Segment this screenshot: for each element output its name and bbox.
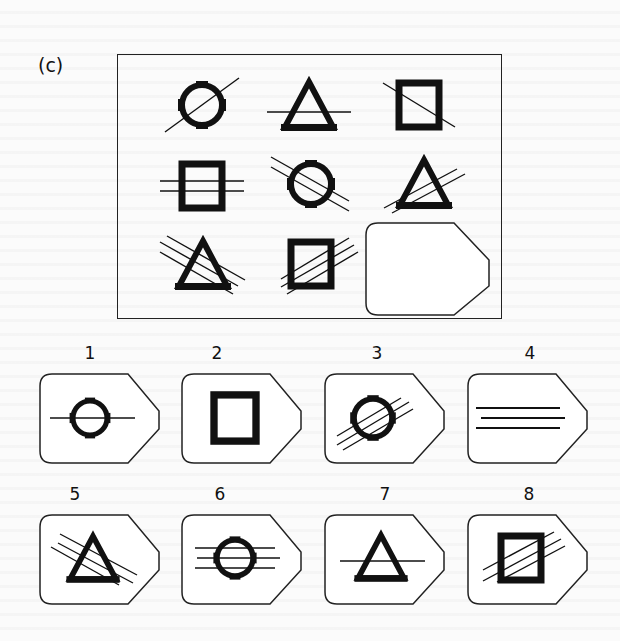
option-8-number: 8 — [514, 484, 544, 504]
option-5-button[interactable] — [40, 515, 160, 605]
cell-r3c3-missing-slot — [366, 223, 489, 315]
option-7-button[interactable] — [325, 515, 445, 605]
option-2-button[interactable] — [182, 374, 302, 464]
option-4-button[interactable] — [468, 374, 588, 464]
option-2-number: 2 — [202, 343, 232, 363]
option-7-number: 7 — [370, 484, 400, 504]
cell-r3c2-square — [281, 238, 358, 294]
cell-r2c3-triangle — [384, 160, 465, 213]
option-4-number: 4 — [515, 343, 545, 363]
cell-r3c1-triangle — [160, 236, 245, 294]
option-1-button[interactable] — [40, 374, 160, 464]
option-5-number: 5 — [60, 484, 90, 504]
option-3-number: 3 — [362, 343, 392, 363]
cell-r1c2-triangle — [267, 82, 351, 131]
option-6-number: 6 — [205, 484, 235, 504]
option-8-button[interactable] — [468, 515, 588, 605]
option-6-button[interactable] — [182, 515, 302, 605]
option-3-button[interactable] — [325, 374, 445, 464]
option-1-number: 1 — [75, 343, 105, 363]
cell-r2c1-square — [160, 164, 244, 208]
cell-r1c1-circle — [165, 78, 239, 132]
cell-r2c2-circle — [271, 157, 349, 211]
cell-r1c3-square — [383, 83, 455, 127]
